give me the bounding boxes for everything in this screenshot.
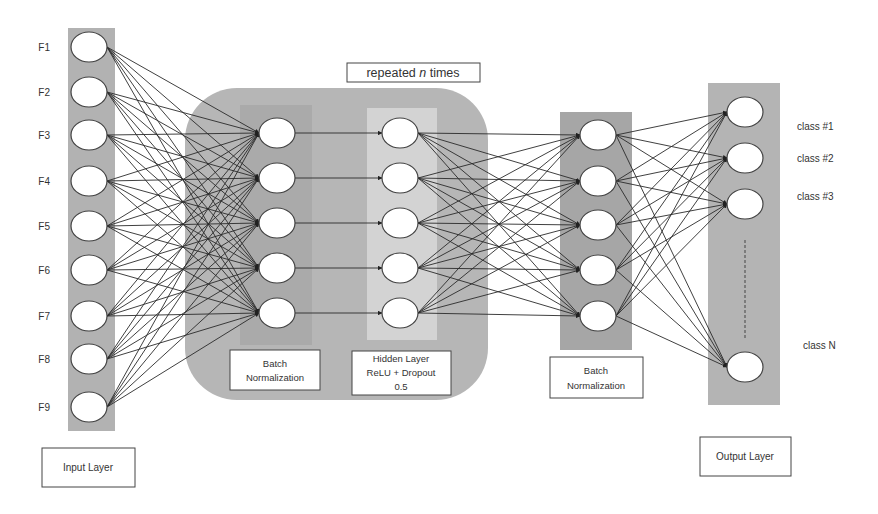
batch-norm-2-label-line2: Normalization <box>567 380 625 391</box>
input-node <box>71 77 107 107</box>
hidden-label-line2: ReLU + Dropout <box>367 367 436 378</box>
batch-norm-2-node <box>580 166 616 196</box>
hidden-node <box>382 118 418 148</box>
feature-label: F1 <box>38 42 50 53</box>
output-node <box>727 97 763 127</box>
hidden-node <box>382 298 418 328</box>
repeated-suffix: times <box>426 66 459 80</box>
output-node <box>727 189 763 219</box>
feature-label: F8 <box>38 354 50 365</box>
input-node <box>71 211 107 241</box>
batch-norm-label-line1: Batch <box>263 358 287 369</box>
repeated-variable: n <box>419 66 426 80</box>
input-node <box>71 344 107 374</box>
batch-norm-node <box>259 118 295 148</box>
class-labels: class #1 class #2 class #3 class N <box>797 121 836 351</box>
batch-norm-2-node <box>580 255 616 285</box>
batch-norm-2-label: Batch Normalization <box>550 357 643 398</box>
batch-norm-2-label-line1: Batch <box>584 365 608 376</box>
repeated-n-times-label: repeated n times <box>347 63 480 82</box>
feature-label: F3 <box>38 130 50 141</box>
class-label: class #2 <box>797 153 834 164</box>
hidden-node <box>382 163 418 193</box>
input-node <box>71 301 107 331</box>
output-node <box>727 352 763 382</box>
input-node <box>71 120 107 150</box>
output-layer-label: Output Layer <box>700 437 791 476</box>
class-label: class #3 <box>797 191 834 202</box>
batch-norm-node <box>259 298 295 328</box>
hidden-node <box>382 253 418 283</box>
hidden-node <box>382 208 418 238</box>
input-layer-label-text: Input Layer <box>63 462 114 473</box>
batch-norm-label: Batch Normalization <box>230 350 320 390</box>
input-node <box>71 392 107 422</box>
batch-norm-node <box>259 163 295 193</box>
svg-text:repeated n times: repeated n times <box>366 66 459 80</box>
hidden-layer-label: Hidden Layer ReLU + Dropout 0.5 <box>352 351 451 395</box>
feature-labels: F1 F2 F3 F4 F5 F6 F7 F8 F9 <box>38 42 50 413</box>
batch-norm-label-line2: Normalization <box>246 372 304 383</box>
feature-label: F4 <box>38 176 50 187</box>
output-layer-label-text: Output Layer <box>716 451 774 462</box>
batch-norm-2-node <box>580 210 616 240</box>
batch-norm-2-node <box>580 301 616 331</box>
batch-norm-2-node <box>580 120 616 150</box>
batch-norm-node <box>259 208 295 238</box>
output-node <box>727 143 763 173</box>
feature-label: F6 <box>38 265 50 276</box>
input-node <box>71 32 107 62</box>
batch-norm-node <box>259 253 295 283</box>
feature-label: F7 <box>38 311 50 322</box>
hidden-label-line3: 0.5 <box>394 381 407 392</box>
input-node <box>71 255 107 285</box>
repeated-prefix: repeated <box>366 66 419 80</box>
neural-network-diagram: F1 F2 F3 F4 F5 F6 F7 F8 F9 class #1 clas… <box>0 0 878 514</box>
feature-label: F9 <box>38 402 50 413</box>
hidden-label-line1: Hidden Layer <box>373 353 430 364</box>
class-label: class N <box>803 340 836 351</box>
input-layer-label: Input Layer <box>42 448 135 487</box>
feature-label: F5 <box>38 221 50 232</box>
feature-label: F2 <box>38 87 50 98</box>
input-node <box>71 166 107 196</box>
class-label: class #1 <box>797 121 834 132</box>
